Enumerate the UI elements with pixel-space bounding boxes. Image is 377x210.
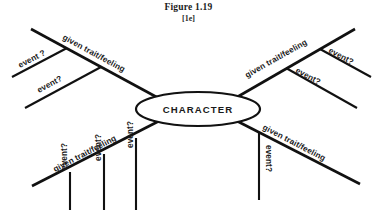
branch-bottom-right-event-0-label: event? [264,145,273,172]
branch-top-right-event-1-label: event? [294,66,322,87]
branch-bottom-right-spine [233,119,360,184]
branch-top-right-spine [232,29,355,100]
branch-top-left-label: given trait/feeling [61,33,127,74]
branch-top-left-spine [31,29,162,100]
branch-bottom-left-event-0-label: event? [60,143,69,170]
branch-top-left: given trait/feeling event ? event? [12,29,162,108]
branch-top-right: given trait/feeling event? event? [232,29,371,108]
branch-top-left-event-1-label: event? [36,74,64,95]
center-node: CHARACTER [136,92,260,126]
branch-bottom-right: given trait/feeling event? [233,119,360,200]
branch-bottom-left-event-2-label: event? [126,121,135,148]
center-node-label: CHARACTER [163,104,234,115]
branch-bottom-left-event-1-label: event? [94,134,103,161]
branch-bottom-left: given trait/feeling event? event? event? [32,119,163,210]
cluster-diagram: given trait/feeling event ? event? given… [0,0,377,210]
figure-container: Figure 1.19 [1e] given trait/feeling eve… [0,0,377,210]
